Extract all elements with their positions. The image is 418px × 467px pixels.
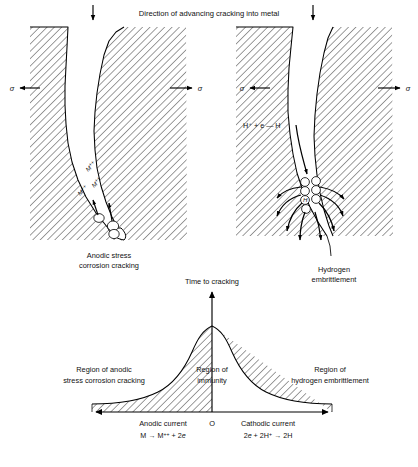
chart-xaxis-right-equation: 2e + 2H+ → 2H — [244, 431, 293, 440]
chart-region-label-hydrogen: Region of hydrogen embrittlement — [291, 365, 369, 385]
region-hydrogen-line1: Region of — [314, 365, 347, 374]
metal-ion-label-2: M++ — [83, 159, 97, 173]
right-panel-left-block-hatch — [236, 27, 327, 236]
chart-region-label-anodic: Region of anodic stress corrosion cracki… — [63, 365, 145, 385]
chart-origin-label: O — [209, 419, 215, 428]
hydrogen-atom — [302, 205, 311, 214]
hydrogen-atom — [301, 187, 310, 196]
hydrogen-atom-cluster: H — [301, 177, 321, 214]
sigma-label-outer-right: σ — [406, 84, 411, 93]
right-crack-panel: H H⁺ + e — H σ σ Hydrogen embrittlement — [236, 27, 411, 284]
figure-canvas: Direction of advancing cracking into met… — [0, 0, 418, 467]
hydrogen-reaction-label: H⁺ + e — H — [243, 121, 281, 130]
crack-fissure-right — [327, 236, 331, 256]
hydrogen-atom — [312, 195, 321, 204]
hydrogen-atom-label: H — [303, 196, 308, 203]
region-hydrogen-line2: hydrogen embrittlement — [291, 376, 369, 385]
time-to-cracking-chart: Time to cracking O Anodic current M → M+… — [63, 277, 369, 440]
left-crack-panel: M++ M++ M++ σ σ Anodic stress corrosion … — [10, 27, 203, 270]
corrosion-cracking-figure: Direction of advancing cracking into met… — [0, 0, 418, 467]
left-caption-line1: Anodic stress — [87, 251, 132, 260]
sigma-label-inner-right: σ — [240, 84, 245, 93]
corrosion-bubble-3 — [109, 229, 119, 238]
sigma-label-inner-left: σ — [198, 84, 203, 93]
region-immunity-line1: Region of — [196, 365, 229, 374]
chart-y-axis-label: Time to cracking — [185, 277, 239, 286]
chart-xaxis-right-label: Cathodic current — [241, 419, 295, 428]
proton-ingress-arrow — [296, 125, 307, 174]
sigma-label-outer-left: σ — [10, 84, 15, 93]
top-title-text: Direction of advancing cracking into met… — [139, 9, 280, 18]
corrosion-bubble-1 — [94, 214, 104, 223]
chart-xaxis-left-label: Anodic current — [139, 419, 187, 428]
right-panel-right-block-hatch — [314, 27, 393, 236]
top-title-group: Direction of advancing cracking into met… — [93, 5, 313, 20]
right-caption-line1: Hydrogen — [318, 265, 350, 274]
chart-xaxis-left-equation: M → M++ + 2e — [140, 431, 185, 440]
region-anodic-line2: stress corrosion cracking — [63, 376, 145, 385]
right-caption-line2: embrittlement — [312, 275, 357, 284]
region-immunity-line2: immunity — [197, 376, 227, 385]
hydrogen-atom — [312, 177, 321, 186]
left-caption-line2: corrosion cracking — [79, 261, 139, 270]
hydrogen-atom — [312, 186, 321, 195]
region-anodic-line1: Region of anodic — [76, 365, 132, 374]
hydrogen-atom — [301, 178, 310, 187]
